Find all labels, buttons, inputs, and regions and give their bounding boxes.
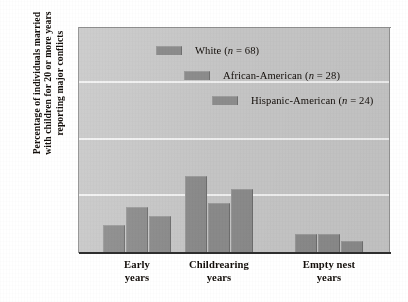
bar-2-1: [185, 176, 207, 253]
bar-1-1: [103, 225, 125, 252]
legend-swatch-3: [212, 96, 238, 105]
legend-item-1: White (n = 68): [156, 45, 259, 56]
bar-2-3: [231, 189, 253, 252]
bar-3-2: [318, 234, 340, 252]
x-axis-label-2-line-2: years: [159, 272, 279, 285]
y-axis-title-line-3: reporting major conflicts: [54, 0, 65, 195]
x-axis-label-3-line-2: years: [269, 272, 389, 285]
gridline-75: [79, 81, 389, 83]
legend-item-2: African-American (n = 28): [184, 70, 340, 81]
bar-1-2: [126, 207, 148, 252]
x-axis-label-3: Empty nestyears: [269, 259, 389, 284]
y-axis-line: [78, 27, 79, 253]
bar-1-3: [149, 216, 171, 252]
plot-area: White (n = 68)African-American (n = 28)H…: [79, 27, 390, 252]
x-axis-label-2-line-1: Childrearing: [159, 259, 279, 272]
y-axis-title-line-1: Percentage of individuals married: [31, 0, 42, 195]
x-axis-label-2: Childrearingyears: [159, 259, 279, 284]
y-axis-title-line-2: with children for 20 or more years: [42, 0, 53, 195]
legend-label-2: African-American (n = 28): [223, 70, 340, 81]
bar-chart: 0255075100 Percentage of individuals mar…: [0, 0, 408, 302]
axis-top-line: [79, 27, 391, 28]
legend-item-3: Hispanic-American (n = 24): [212, 95, 373, 106]
legend-swatch-2: [184, 71, 210, 80]
bar-3-1: [295, 234, 317, 252]
y-axis-title: Percentage of individuals married with c…: [31, 0, 65, 195]
legend-label-3: Hispanic-American (n = 24): [251, 95, 373, 106]
legend-swatch-1: [156, 46, 182, 55]
legend-label-1: White (n = 68): [195, 45, 259, 56]
x-axis-line: [79, 252, 391, 254]
x-axis-label-3-line-1: Empty nest: [269, 259, 389, 272]
bar-2-2: [208, 203, 230, 253]
gridline-50: [79, 138, 389, 140]
bar-3-3: [341, 241, 363, 252]
